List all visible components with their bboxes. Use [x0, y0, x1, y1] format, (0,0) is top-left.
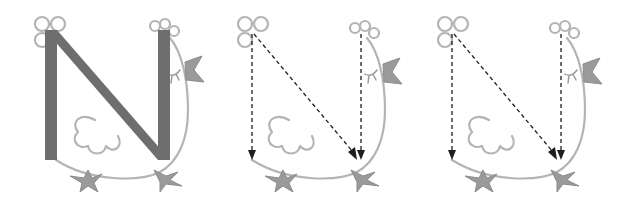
right-foot-icon [551, 170, 579, 192]
arrowhead-icon [548, 147, 557, 160]
flower-comb-icon [438, 17, 468, 47]
figure-subject: Letter N shaped like a chicken [0, 0, 13, 1]
arrowhead-icon [448, 150, 456, 160]
panel-3-stroke-guide [0, 0, 637, 206]
guide-diagonal [454, 34, 553, 152]
chicken-body-outline [452, 38, 585, 178]
beak-icon [583, 58, 602, 84]
wing-icon [469, 117, 514, 153]
chicken-3 [438, 17, 602, 192]
stroke-guide-arrows [448, 34, 565, 160]
letter-n-chicken-figure: Letter N shaped like a chicken [0, 0, 637, 206]
small-comb-icon [550, 21, 579, 38]
left-foot-icon [465, 170, 497, 192]
arrowhead-icon [557, 150, 565, 160]
eye-icon [565, 70, 577, 83]
